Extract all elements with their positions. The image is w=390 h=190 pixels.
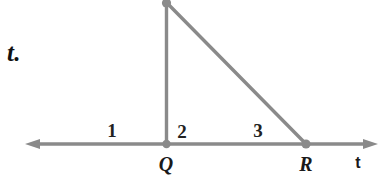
vertex-dot-q — [162, 140, 170, 148]
triangle-segments — [167, 3, 307, 144]
vertex-dot-r — [301, 139, 310, 148]
point-label-q: Q — [159, 154, 173, 174]
text-fragment: t. — [7, 40, 21, 65]
geometry-diagram-svg — [0, 0, 390, 190]
line-t — [25, 139, 378, 149]
arrowhead-left-icon — [25, 139, 40, 149]
figure-canvas: t. 1 2 3 Q R t — [0, 0, 390, 190]
line-label-t: t — [355, 155, 360, 171]
angle-label-3: 3 — [253, 121, 263, 140]
point-label-r: R — [299, 154, 312, 174]
arrowhead-right-icon — [363, 139, 378, 149]
angle-label-1: 1 — [107, 121, 117, 140]
angle-label-2: 2 — [177, 122, 187, 141]
segment-apex-r — [167, 3, 306, 144]
